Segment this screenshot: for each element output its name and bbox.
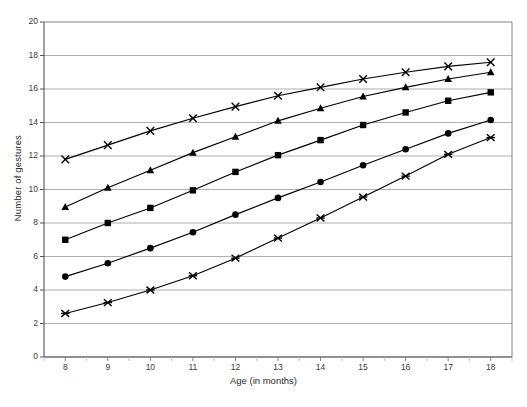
page-caption-strip bbox=[0, 396, 527, 407]
y-axis-tick-label: 4 bbox=[16, 284, 38, 294]
series-5-point-13 bbox=[274, 235, 282, 242]
y-axis-tick-label: 8 bbox=[16, 217, 38, 227]
x-axis-tick-label: 8 bbox=[53, 362, 77, 372]
y-axis-tick-label: 12 bbox=[16, 150, 38, 160]
x-axis-tick-label: 10 bbox=[138, 362, 162, 372]
series-3-point-18 bbox=[488, 89, 494, 95]
series-1-point-12 bbox=[232, 103, 240, 111]
series-2-point-18 bbox=[487, 68, 495, 75]
series-1-point-9 bbox=[104, 141, 112, 149]
series-4-point-13 bbox=[275, 195, 282, 202]
series-3-point-8 bbox=[62, 237, 68, 243]
y-axis-tick-label: 14 bbox=[16, 117, 38, 127]
series-3-point-11 bbox=[190, 187, 196, 193]
series-line-5 bbox=[65, 138, 490, 314]
series-4-point-17 bbox=[445, 130, 452, 137]
x-axis-tick-label: 14 bbox=[309, 362, 333, 372]
y-axis-tick-label: 2 bbox=[16, 318, 38, 328]
series-5-point-10 bbox=[146, 287, 154, 294]
series-3-point-15 bbox=[360, 122, 366, 128]
x-axis-title: Age (in months) bbox=[0, 375, 527, 386]
series-3-point-10 bbox=[147, 205, 153, 211]
y-axis-tick-label: 20 bbox=[16, 16, 38, 26]
x-axis-tick-label: 15 bbox=[351, 362, 375, 372]
x-axis-tick-label: 9 bbox=[96, 362, 120, 372]
y-axis-tick-label: 6 bbox=[16, 251, 38, 261]
series-5-point-15 bbox=[359, 194, 367, 201]
series-5-point-8 bbox=[61, 310, 69, 317]
series-4-point-9 bbox=[105, 260, 112, 267]
series-line-3 bbox=[65, 92, 490, 239]
series-3-point-12 bbox=[232, 169, 238, 175]
series-4-point-18 bbox=[487, 117, 494, 124]
x-axis-tick-label: 16 bbox=[394, 362, 418, 372]
series-1-point-8 bbox=[61, 156, 69, 164]
series-4-point-10 bbox=[147, 245, 154, 252]
line-chart-figure: Number of gestures Age (in months) 02468… bbox=[0, 0, 527, 407]
series-5-point-18 bbox=[487, 134, 495, 141]
series-3-point-9 bbox=[105, 220, 111, 226]
series-4-point-11 bbox=[190, 229, 197, 236]
series-2-point-8 bbox=[61, 203, 69, 210]
series-3-point-17 bbox=[445, 98, 451, 104]
series-line-1 bbox=[65, 62, 490, 159]
series-5-point-12 bbox=[231, 255, 239, 262]
series-3-point-16 bbox=[402, 109, 408, 115]
y-axis-tick-label: 0 bbox=[16, 351, 38, 361]
series-3-point-13 bbox=[275, 152, 281, 158]
series-5-point-11 bbox=[189, 272, 197, 279]
series-4-point-16 bbox=[402, 146, 409, 153]
series-3-point-14 bbox=[317, 137, 323, 143]
series-1-point-11 bbox=[189, 115, 197, 123]
series-5-point-17 bbox=[444, 151, 452, 158]
series-4-point-8 bbox=[62, 273, 69, 280]
x-axis-tick-label: 17 bbox=[436, 362, 460, 372]
y-axis-tick-label: 18 bbox=[16, 50, 38, 60]
plot-area bbox=[0, 0, 527, 407]
series-4-point-15 bbox=[360, 162, 367, 169]
series-4-point-14 bbox=[317, 179, 324, 186]
series-1-point-10 bbox=[147, 127, 155, 135]
series-line-2 bbox=[65, 72, 490, 207]
x-axis-tick-label: 12 bbox=[223, 362, 247, 372]
series-5-point-9 bbox=[104, 299, 112, 306]
y-axis-tick-label: 16 bbox=[16, 83, 38, 93]
y-axis-tick-label: 10 bbox=[16, 184, 38, 194]
series-4-point-12 bbox=[232, 211, 239, 218]
series-5-point-14 bbox=[316, 215, 324, 222]
series-5-point-16 bbox=[401, 173, 409, 180]
x-axis-tick-label: 18 bbox=[479, 362, 503, 372]
x-axis-tick-label: 13 bbox=[266, 362, 290, 372]
x-axis-tick-label: 11 bbox=[181, 362, 205, 372]
